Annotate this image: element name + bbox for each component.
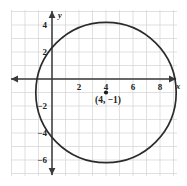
figure-background <box>0 0 187 186</box>
y-axis-label: y <box>57 10 62 20</box>
x-tick-label-8: 8 <box>158 82 163 92</box>
center-point-label: (4, −1) <box>95 95 121 106</box>
y-tick-label-neg2: −2 <box>37 101 47 111</box>
coordinate-plane-svg: x y 2468 42−2−4−6 (4, −1) <box>0 0 187 186</box>
y-tick-label-neg6: −6 <box>37 155 47 165</box>
graph-figure: x y 2468 42−2−4−6 (4, −1) <box>0 0 187 186</box>
y-tick-label-4: 4 <box>43 20 48 30</box>
x-axis-label: x <box>175 81 181 91</box>
x-tick-label-4: 4 <box>104 82 109 92</box>
y-tick-label-neg4: −4 <box>37 128 47 138</box>
x-tick-label-6: 6 <box>131 82 136 92</box>
x-tick-label-2: 2 <box>77 82 82 92</box>
y-tick-label-2: 2 <box>43 47 48 57</box>
